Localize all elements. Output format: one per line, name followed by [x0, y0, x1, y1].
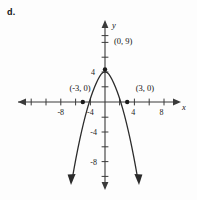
point-left-x-intercept [81, 100, 85, 104]
y-tick-label-plus4: 4 [91, 68, 95, 77]
x-axis-label: x [181, 102, 186, 112]
label-left-x-intercept: (-3, 0) [69, 83, 90, 93]
x-tick-label-minus4: -4 [87, 108, 94, 117]
y-axis-top-arrowhead [102, 20, 109, 28]
coordinate-plane: -8 -4 4 8 x 4 [0, 0, 197, 200]
x-tick-label-plus8: 8 [160, 108, 164, 117]
y-tick-label-minus8: -8 [90, 158, 97, 167]
y-axis-label: y [111, 20, 116, 30]
parabola-figure: d. -8 -4 4 8 x [0, 0, 197, 200]
parabola-left-arrowhead [68, 174, 76, 185]
point-right-x-intercept [125, 100, 129, 104]
parabola-right-arrowhead [134, 174, 142, 185]
label-right-x-intercept: (3, 0) [136, 83, 155, 93]
x-tick-label-plus4: 4 [131, 108, 135, 117]
label-y-intercept: (0, 9) [114, 36, 133, 46]
x-axis: -8 -4 4 8 x [18, 99, 186, 117]
x-axis-right-arrowhead [173, 99, 181, 106]
y-axis: 4 -4 -8 y [90, 20, 116, 190]
y-tick-label-minus4: -4 [90, 128, 97, 137]
y-axis-bottom-arrowhead [102, 182, 109, 190]
x-axis-left-arrowhead [18, 99, 26, 106]
point-y-intercept [103, 67, 107, 71]
x-tick-label-minus8: -8 [57, 108, 64, 117]
